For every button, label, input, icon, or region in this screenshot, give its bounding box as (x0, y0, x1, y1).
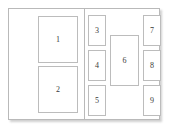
region-box-5[interactable]: 5 (88, 85, 106, 116)
left-panel: 1 2 (9, 9, 85, 119)
region-box-8[interactable]: 8 (143, 50, 161, 81)
window-frame: 1 2 3 4 5 6 7 8 (8, 8, 160, 120)
region-box-9[interactable]: 9 (143, 85, 161, 116)
region-box-7[interactable]: 7 (143, 15, 161, 46)
region-box-4[interactable]: 4 (88, 50, 106, 81)
region-box-2[interactable]: 2 (38, 66, 78, 113)
region-box-9-label: 9 (150, 97, 154, 105)
region-box-1-label: 1 (56, 36, 60, 44)
screenshot-root: 1 2 3 4 5 6 7 8 (0, 0, 169, 131)
region-box-1[interactable]: 1 (38, 16, 78, 63)
region-box-5-label: 5 (95, 97, 99, 105)
region-box-7-label: 7 (150, 27, 154, 35)
region-box-8-label: 8 (150, 62, 154, 70)
region-box-2-label: 2 (56, 86, 60, 94)
region-box-3[interactable]: 3 (88, 15, 106, 46)
region-box-6-label: 6 (123, 57, 127, 65)
region-box-4-label: 4 (95, 62, 99, 70)
region-box-6[interactable]: 6 (110, 35, 139, 86)
right-panel: 3 4 5 6 7 8 9 (85, 9, 159, 119)
region-box-3-label: 3 (95, 27, 99, 35)
